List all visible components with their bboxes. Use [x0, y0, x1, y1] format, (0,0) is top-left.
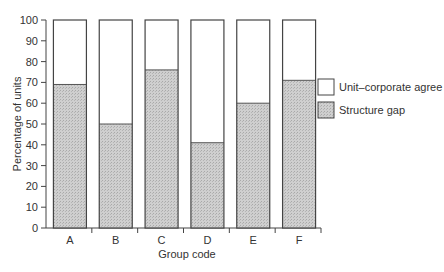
- x-tick-label: F: [296, 234, 303, 246]
- y-tick-label: 70: [26, 76, 38, 88]
- bar-segment-structure-gap: [145, 70, 178, 228]
- bar-group-A: [53, 20, 86, 228]
- x-tick-label: B: [112, 234, 119, 246]
- y-tick-label: 10: [26, 201, 38, 213]
- y-tick-label: 40: [26, 139, 38, 151]
- bar-segment-structure-gap: [191, 143, 224, 228]
- y-tick-label: 90: [26, 35, 38, 47]
- legend-label: Unit–corporate agree: [339, 81, 442, 93]
- x-axis-title: Group code: [158, 248, 215, 260]
- y-tick-label: 80: [26, 56, 38, 68]
- y-tick-label: 60: [26, 97, 38, 109]
- legend-item-1: Structure gap: [318, 102, 405, 118]
- bar-segment-structure-gap: [99, 124, 132, 228]
- bar-segment-structure-gap: [53, 84, 86, 228]
- bars: [53, 20, 315, 228]
- y-tick-label: 0: [32, 222, 38, 234]
- x-tick-label: E: [250, 234, 257, 246]
- x-tick-label: A: [66, 234, 74, 246]
- x-tick-label: C: [158, 234, 166, 246]
- legend-item-0: Unit–corporate agree: [318, 79, 442, 95]
- y-tick-label: 50: [26, 118, 38, 130]
- y-axis-title: Percentage of units: [11, 76, 23, 171]
- x-axis: ABCDEF: [46, 228, 321, 246]
- y-axis: 0102030405060708090100: [20, 14, 46, 234]
- legend: Unit–corporate agreeStructure gap: [318, 79, 442, 118]
- legend-swatch: [318, 79, 334, 95]
- legend-swatch: [318, 102, 334, 118]
- legend-label: Structure gap: [339, 104, 405, 116]
- y-tick-label: 100: [20, 14, 38, 26]
- bar-group-B: [99, 20, 132, 228]
- x-tick-label: D: [203, 234, 211, 246]
- bar-segment-structure-gap: [237, 103, 270, 228]
- bar-group-C: [145, 20, 178, 228]
- stacked-bar-chart: 0102030405060708090100 ABCDEF Unit–corpo…: [0, 0, 444, 272]
- bar-segment-structure-gap: [283, 80, 316, 228]
- bar-group-E: [237, 20, 270, 228]
- bar-group-F: [283, 20, 316, 228]
- y-tick-label: 30: [26, 160, 38, 172]
- bar-group-D: [191, 20, 224, 228]
- y-tick-label: 20: [26, 180, 38, 192]
